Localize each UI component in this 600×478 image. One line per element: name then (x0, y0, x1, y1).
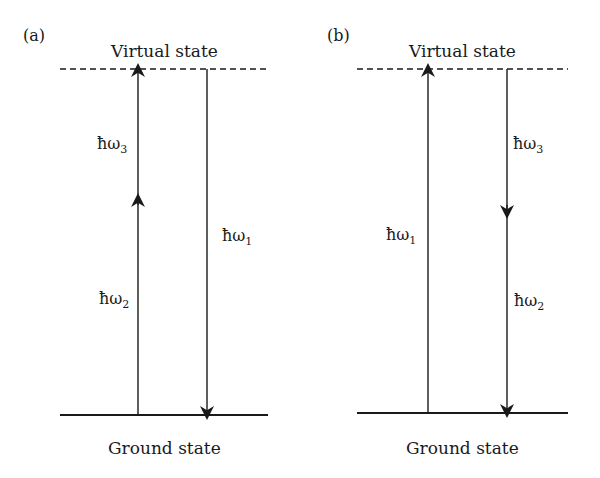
ground-state-label: Ground state (406, 438, 519, 458)
virtual-state-label: Virtual state (111, 41, 218, 61)
ground-state-label: Ground state (108, 438, 221, 458)
energy-level-diagram (0, 0, 600, 478)
omega3-label: ħω3 (513, 134, 543, 156)
panel-label: (b) (327, 26, 350, 45)
virtual-state-label: Virtual state (409, 41, 516, 61)
omega1-label: ħω1 (222, 226, 252, 248)
omega2-label: ħω2 (514, 291, 544, 313)
omega2-label: ħω2 (99, 289, 129, 311)
omega3-label: ħω3 (97, 134, 127, 156)
panel-label: (a) (23, 26, 45, 45)
omega1-label: ħω1 (386, 225, 416, 247)
